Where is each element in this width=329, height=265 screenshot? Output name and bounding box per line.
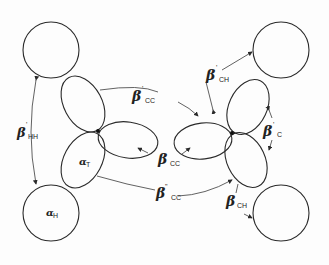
arrow-beta-cc-right bbox=[182, 148, 190, 154]
svg-text:": " bbox=[165, 183, 168, 190]
lobe-left-up bbox=[52, 69, 114, 140]
svg-text:': ' bbox=[26, 121, 27, 128]
label-beta-cc-prime: β ' CC bbox=[131, 85, 155, 104]
svg-text:β: β bbox=[16, 125, 26, 140]
carbon-right-hybrids bbox=[172, 73, 277, 195]
carbon-right-nucleus bbox=[230, 131, 234, 135]
svg-text:CC: CC bbox=[145, 97, 155, 104]
carbon-left-nucleus bbox=[96, 129, 100, 133]
label-beta-ch: β CH bbox=[225, 193, 247, 209]
label-beta-hh-prime: β ' HH bbox=[16, 121, 38, 140]
svg-text:': ' bbox=[142, 85, 143, 92]
label-alpha-h: α H bbox=[46, 207, 58, 219]
svg-text:C: C bbox=[277, 131, 282, 138]
svg-text:β: β bbox=[262, 123, 273, 139]
orbital-diagram: β ' HH β ' CC β ' CH β ' C β CC β " CC bbox=[0, 0, 329, 265]
arrow-beta-hh-prime bbox=[31, 80, 36, 184]
arrow-beta-ch bbox=[236, 184, 252, 218]
svg-text:H: H bbox=[53, 212, 58, 219]
svg-text:HH: HH bbox=[28, 133, 38, 140]
label-beta-c-prime: β ' C bbox=[262, 121, 282, 139]
hydrogen-orbital-top-left bbox=[23, 22, 79, 78]
svg-text:CH: CH bbox=[237, 202, 247, 209]
label-beta-cc: β CC bbox=[157, 151, 180, 167]
label-alpha-t: α T bbox=[79, 156, 91, 168]
svg-text:β: β bbox=[157, 151, 168, 167]
label-beta-cc-double: β " CC bbox=[155, 183, 181, 201]
hydrogen-orbital-bottom-right bbox=[253, 185, 309, 241]
carbon-left-hybrids bbox=[52, 69, 160, 196]
svg-text:': ' bbox=[273, 121, 274, 128]
svg-text:β: β bbox=[225, 193, 236, 209]
diagram-svg: β ' HH β ' CC β ' CH β ' C β CC β " CC bbox=[0, 0, 329, 265]
svg-text:β: β bbox=[131, 88, 142, 104]
svg-text:CH: CH bbox=[219, 76, 229, 83]
hydrogen-orbital-top-right bbox=[253, 22, 309, 78]
lobe-left-right bbox=[96, 118, 160, 162]
lobe-right-left bbox=[172, 120, 233, 162]
arrow-beta-cc-left bbox=[138, 148, 148, 153]
svg-text:': ' bbox=[216, 64, 217, 71]
svg-text:T: T bbox=[86, 161, 91, 168]
svg-text:β: β bbox=[205, 67, 216, 83]
svg-text:CC: CC bbox=[170, 160, 180, 167]
label-beta-ch-prime: β ' CH bbox=[205, 64, 229, 83]
svg-text:CC: CC bbox=[171, 194, 181, 201]
